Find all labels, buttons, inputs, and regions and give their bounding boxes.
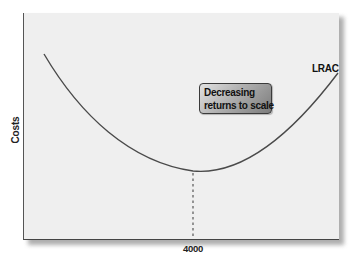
callout-line-1: Decreasing [204, 86, 267, 99]
callout-line-2: returns to scale [204, 99, 267, 112]
lrac-curve [44, 54, 338, 171]
x-tick-label: 4000 [183, 243, 203, 254]
y-axis-label: Costs [10, 117, 21, 144]
lrac-label: LRAC [312, 63, 339, 74]
chart-svg [0, 0, 356, 262]
decreasing-returns-callout: Decreasing returns to scale [199, 83, 272, 114]
